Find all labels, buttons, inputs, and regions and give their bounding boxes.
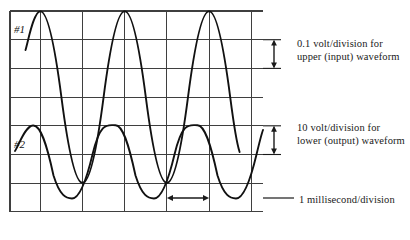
trace-2-label: #2 — [14, 138, 25, 150]
lower-gain-line-2: lower (output) waveform — [297, 135, 405, 148]
upper-gain-annotation: 0.1 volt/division for upper (input) wave… — [297, 38, 400, 63]
upper-gain-line-1: 0.1 volt/division for — [297, 38, 400, 51]
upper-gain-line-2: upper (input) waveform — [297, 51, 400, 64]
trace-1-label: #1 — [14, 23, 25, 35]
timebase-annotation: 1 millisecond/division — [299, 194, 395, 207]
lower-gain-annotation: 10 volt/division for lower (output) wave… — [297, 122, 405, 147]
lower-gain-line-1: 10 volt/division for — [297, 122, 405, 135]
timebase-line-1: 1 millisecond/division — [299, 194, 395, 207]
